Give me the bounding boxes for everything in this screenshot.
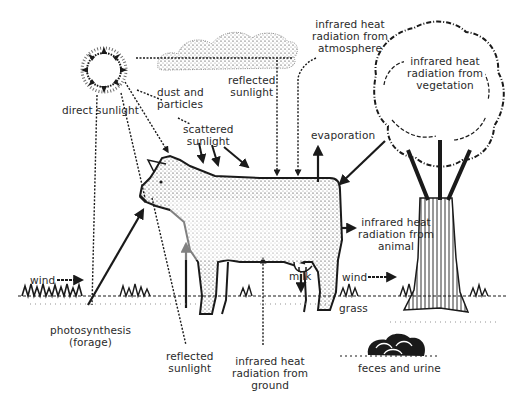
label-line: (forage) bbox=[50, 336, 131, 348]
label-scattered-sunlight: scattered sunlight bbox=[183, 123, 233, 147]
label-grass: grass bbox=[339, 302, 368, 314]
label-line: evaporation bbox=[311, 129, 375, 141]
feces-pile-icon bbox=[340, 334, 440, 356]
label-line: dust and bbox=[157, 86, 204, 98]
label-reflected-sunlight-ground: reflected sunlight bbox=[166, 350, 214, 374]
label-wind-left: wind bbox=[30, 274, 55, 286]
label-line: infrared heat bbox=[407, 55, 483, 67]
label-line: feces and urine bbox=[358, 362, 441, 374]
label-dust-particles: dust and particles bbox=[157, 86, 204, 110]
label-line: radiation from bbox=[232, 367, 308, 379]
label-line: photosynthesis bbox=[50, 324, 131, 336]
label-line: infrared heat bbox=[312, 18, 388, 30]
label-line: radiation from bbox=[358, 228, 434, 240]
label-line: vegetation bbox=[407, 79, 483, 91]
label-direct-sunlight: direct sunlight bbox=[62, 104, 139, 116]
cloud-icon bbox=[136, 32, 297, 70]
cow-energy-diagram: direct sunlight dust and particles scatt… bbox=[0, 0, 524, 393]
label-line: infrared heat bbox=[358, 216, 434, 228]
label-line: grass bbox=[339, 302, 368, 314]
label-line: infrared heat bbox=[232, 355, 308, 367]
label-feces-urine: feces and urine bbox=[358, 362, 441, 374]
label-ir-ground: infrared heat radiation from ground bbox=[232, 355, 308, 391]
label-evaporation: evaporation bbox=[311, 129, 375, 141]
label-wind-right: wind bbox=[342, 271, 367, 283]
label-line: ground bbox=[232, 379, 308, 391]
label-line: radiation from bbox=[312, 30, 388, 42]
label-line: reflected bbox=[166, 350, 214, 362]
label-line: animal bbox=[358, 240, 434, 252]
label-photosynthesis: photosynthesis (forage) bbox=[50, 324, 131, 348]
label-line: direct sunlight bbox=[62, 104, 139, 116]
label-reflected-sunlight-sky: reflected sunlight bbox=[228, 74, 276, 98]
label-milk: milk bbox=[289, 270, 312, 282]
label-ir-vegetation: infrared heat radiation from vegetation bbox=[405, 55, 485, 91]
label-line: radiation from bbox=[407, 67, 483, 79]
label-line: sunlight bbox=[166, 362, 214, 374]
label-line: sunlight bbox=[228, 86, 276, 98]
label-line: scattered bbox=[183, 123, 233, 135]
cow-illustration bbox=[140, 156, 342, 314]
label-line: sunlight bbox=[183, 135, 233, 147]
label-line: atmosphere bbox=[312, 42, 388, 54]
label-line: reflected bbox=[228, 74, 276, 86]
label-line: milk bbox=[289, 270, 312, 282]
label-ir-atmosphere: infrared heat radiation from atmosphere bbox=[312, 18, 388, 54]
sun-icon bbox=[81, 47, 127, 93]
label-ir-animal: infrared heat radiation from animal bbox=[358, 216, 434, 252]
label-line: particles bbox=[157, 98, 204, 110]
label-line: wind bbox=[30, 274, 55, 286]
label-line: wind bbox=[342, 271, 367, 283]
